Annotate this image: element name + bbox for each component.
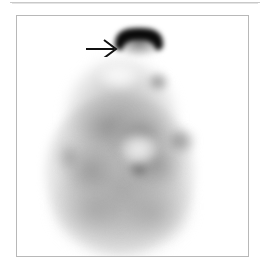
figure-frame — [16, 15, 249, 257]
internal-structure-right-superior — [113, 112, 171, 156]
left-lateral-focus-spot — [57, 142, 81, 172]
upper-body-blob — [65, 58, 177, 178]
scintigraphy-image — [17, 16, 248, 256]
right-lateral-focus-spot — [165, 128, 195, 154]
internal-structure-right-mid — [127, 140, 183, 188]
scan-alt-text: Grayscale planar scintigraphy image of t… — [0, 0, 1, 1]
right-upper-focus-spot — [147, 72, 169, 92]
figure-page: Grayscale planar scintigraphy image of t… — [0, 0, 266, 274]
body-silhouette-blob — [45, 94, 195, 254]
central-focus-spot — [127, 158, 151, 180]
internal-structure-left-superior — [77, 104, 139, 150]
internal-structure-left-mid — [65, 144, 117, 196]
figure-caption — [0, 0, 1, 1]
page-top-rule-shadow — [12, 3, 258, 4]
central-photopenic-area — [121, 134, 157, 164]
internal-structure-right-inferior — [121, 188, 185, 240]
superior-photopenic-area — [99, 64, 139, 88]
internal-structure-left-inferior — [61, 186, 127, 236]
lower-body-blob — [51, 156, 193, 256]
pointer-arrow-icon — [85, 37, 119, 57]
